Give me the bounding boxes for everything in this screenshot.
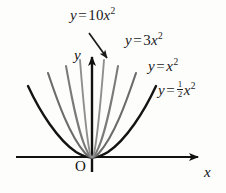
y-axis-label: y bbox=[74, 48, 81, 63]
label-coefficient: 3 bbox=[143, 32, 151, 48]
label-y-equals-10x-squared: y=10x2 bbox=[70, 8, 115, 23]
label-variable: x bbox=[184, 82, 191, 98]
label-y-equals-half-x-squared: y=12x2 bbox=[158, 80, 196, 99]
label-equals: = bbox=[155, 58, 167, 74]
label-lhs: y bbox=[125, 32, 132, 48]
fraction-one-half: 12 bbox=[177, 80, 184, 99]
fraction-denominator: 2 bbox=[177, 89, 184, 99]
label-exponent: 2 bbox=[173, 57, 178, 67]
label-exponent: 2 bbox=[158, 31, 163, 41]
label-equals: = bbox=[77, 7, 89, 23]
origin-label: O bbox=[75, 159, 86, 174]
label-equals: = bbox=[165, 82, 177, 98]
label-y-equals-3x-squared: y=3x2 bbox=[125, 33, 163, 48]
label-equals: = bbox=[132, 32, 144, 48]
label-variable: x bbox=[104, 7, 111, 23]
label-lhs: y bbox=[148, 58, 155, 74]
fraction-numerator: 1 bbox=[177, 80, 184, 89]
label-y-equals-x-squared: y=x2 bbox=[148, 59, 178, 74]
x-axis-label: x bbox=[204, 165, 211, 180]
leader-arrow-10x-squared bbox=[89, 33, 107, 58]
parabola-figure: y=10x2 y=3x2 y=x2 y=12x2 y x O bbox=[0, 0, 226, 193]
label-coefficient: 10 bbox=[88, 7, 103, 23]
label-lhs: y bbox=[158, 82, 165, 98]
label-exponent: 2 bbox=[191, 81, 196, 91]
label-lhs: y bbox=[70, 7, 77, 23]
label-exponent: 2 bbox=[111, 6, 116, 16]
label-variable: x bbox=[151, 32, 158, 48]
